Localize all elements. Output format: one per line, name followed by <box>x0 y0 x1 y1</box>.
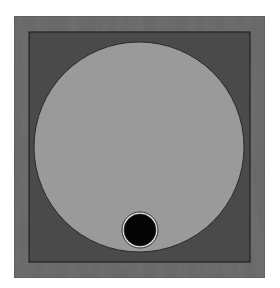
hole <box>124 214 156 246</box>
diagram-canvas <box>0 0 280 288</box>
disc-in-square-diagram <box>0 0 280 288</box>
